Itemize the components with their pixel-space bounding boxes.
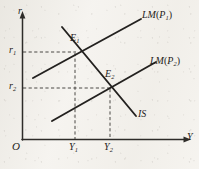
curve-lm-p1-paren-close: ) (169, 9, 172, 20)
equilibrium-e2-subscript: 2 (111, 73, 114, 80)
x-tick-label-y1: Y1 (69, 142, 78, 152)
equilibrium-e1-subscript: 1 (76, 37, 79, 44)
y-tick-label-r1: r1 (9, 45, 16, 55)
lm-p1-curve (33, 19, 141, 78)
is-lm-figure: r Y O r1 r2 Y1 Y2 E1 E2 LM(P1) LM(P2) IS (0, 0, 199, 169)
y-axis-label: r (18, 6, 22, 16)
x-tick-label-y2: Y2 (104, 142, 113, 152)
y-tick-r1-subscript: 1 (13, 49, 16, 56)
x-tick-y2-subscript: 2 (110, 146, 113, 153)
y-tick-r2-subscript: 2 (13, 85, 16, 92)
equilibrium-label-e2: E2 (105, 69, 115, 79)
x-tick-y1-base: Y (69, 141, 75, 152)
x-axis-label: Y (187, 132, 193, 142)
curve-label-lm-p2: LM(P2) (150, 56, 180, 66)
curve-lm-p2-base: LM (150, 55, 164, 66)
equilibrium-label-e1: E1 (70, 33, 80, 43)
curve-label-lm-p1: LM(P1) (142, 10, 172, 20)
curve-lm-p1-arg-subscript: 1 (165, 14, 168, 21)
origin-label: O (12, 141, 20, 152)
curve-label-is: IS (138, 109, 146, 119)
x-tick-y1-subscript: 1 (75, 146, 78, 153)
curve-lm-p2-arg-subscript: 2 (173, 60, 176, 67)
x-tick-y2-base: Y (104, 141, 110, 152)
y-tick-label-r2: r2 (9, 81, 16, 91)
curve-lm-p2-paren-close: ) (177, 55, 180, 66)
curve-lm-p1-base: LM (142, 9, 156, 20)
plot-canvas (0, 0, 199, 169)
curves-group (33, 19, 156, 121)
